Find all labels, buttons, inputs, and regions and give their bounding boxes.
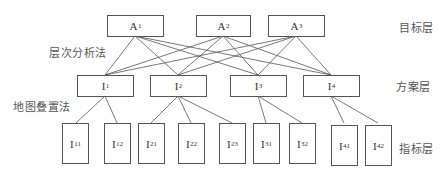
node-label: I (70, 138, 74, 150)
goal-node-a3: A3 (268, 15, 325, 37)
node-subscript: 21 (150, 140, 157, 148)
node-label: I (261, 138, 265, 150)
node-label: I (227, 138, 231, 150)
node-label: I (175, 80, 179, 92)
goal-node-a1: A1 (107, 15, 164, 37)
node-label: A (291, 20, 299, 32)
indicator-node-i42: I42 (365, 125, 392, 166)
goal-layer-label: 目标层 (399, 19, 434, 35)
node-label: I (255, 80, 259, 92)
node-subscript: 31 (265, 140, 272, 148)
indicator-node-i41: I41 (331, 125, 358, 166)
node-subscript: 22 (190, 140, 197, 148)
indicator-node-i21: I21 (138, 123, 165, 164)
node-subscript: 4 (332, 82, 336, 90)
node-label: I (146, 138, 150, 150)
node-subscript: 3 (299, 22, 303, 30)
node-subscript: 3 (259, 82, 263, 90)
indicator-node-i31: I31 (253, 123, 280, 164)
indicator-node-i23: I23 (219, 123, 246, 164)
indicator-node-i32: I32 (289, 123, 316, 164)
indicator-node-i22: I22 (178, 123, 205, 164)
scheme-layer-label: 方案层 (396, 78, 431, 94)
node-subscript: 11 (74, 140, 81, 148)
indicator-node-i12: I12 (104, 123, 131, 164)
scheme-node-i1: I1 (77, 75, 134, 97)
node-label: I (339, 140, 343, 152)
node-subscript: 1 (106, 82, 110, 90)
node-label: A (218, 20, 226, 32)
scheme-node-i3: I3 (230, 75, 287, 97)
indicator-layer-label: 指标层 (399, 140, 434, 156)
indicator-node-i11: I11 (62, 123, 89, 164)
node-label: I (112, 138, 116, 150)
node-label: A (130, 20, 138, 32)
node-subscript: 23 (231, 140, 238, 148)
node-subscript: 1 (138, 22, 142, 30)
node-label: I (186, 138, 190, 150)
scheme-node-i2: I2 (150, 75, 207, 97)
scheme-node-i4: I4 (303, 75, 360, 97)
node-subscript: 41 (343, 142, 350, 150)
node-subscript: 2 (226, 22, 230, 30)
goal-node-a2: A2 (196, 15, 251, 37)
node-subscript: 42 (377, 142, 384, 150)
node-subscript: 32 (301, 140, 308, 148)
node-subscript: 2 (179, 82, 183, 90)
node-label: I (102, 80, 106, 92)
ahp-method-label: 层次分析法 (49, 44, 107, 60)
node-label: I (297, 138, 301, 150)
node-label: I (373, 140, 377, 152)
node-label: I (328, 80, 332, 92)
overlay-method-label: 地图叠置法 (13, 98, 71, 114)
node-subscript: 12 (116, 140, 123, 148)
